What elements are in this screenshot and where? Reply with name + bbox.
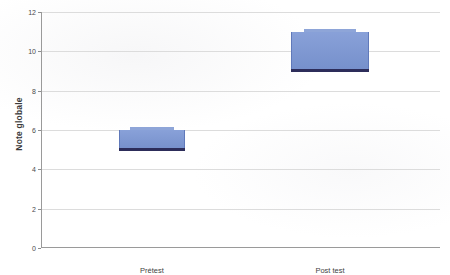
gridline [42, 130, 440, 131]
box-plot-box[interactable] [119, 12, 185, 248]
y-tick-mark [38, 91, 41, 92]
y-tick-label: 4 [32, 166, 36, 173]
box-plot-chart: Note globale 121086420 PrétestPost test [0, 0, 450, 275]
gridline [42, 12, 440, 13]
y-tick-label: 12 [28, 9, 36, 16]
gridline [42, 91, 440, 92]
y-axis-title: Note globale [8, 0, 30, 248]
y-tick-label: 0 [32, 245, 36, 252]
y-tick-label: 10 [28, 48, 36, 55]
y-tick-mark [38, 169, 41, 170]
x-axis-line [41, 247, 440, 248]
y-tick-label: 6 [32, 127, 36, 134]
y-tick-mark [38, 248, 41, 249]
y-axis-title-label: Note globale [14, 97, 24, 150]
gridline [42, 209, 440, 210]
y-tick-label: 2 [32, 205, 36, 212]
y-tick-mark [38, 130, 41, 131]
y-tick-label: 8 [32, 87, 36, 94]
y-tick-mark [38, 209, 41, 210]
y-tick-mark [38, 12, 41, 13]
gridline [42, 169, 440, 170]
box-median-line [119, 148, 185, 151]
gridline [42, 51, 440, 52]
y-tick-mark [38, 51, 41, 52]
x-category-label: Post test [315, 266, 344, 275]
plot-area: 121086420 PrétestPost test [41, 12, 440, 248]
box-median-line [291, 69, 369, 72]
box-body [291, 32, 369, 71]
box-plot-box[interactable] [291, 12, 369, 248]
x-category-label: Prétest [140, 266, 164, 275]
